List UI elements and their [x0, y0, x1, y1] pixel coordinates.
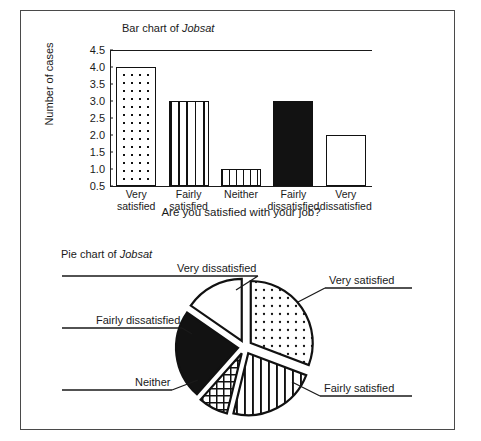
pie-slice: [251, 281, 313, 365]
bar-chart-y-axis-spine: [110, 50, 111, 187]
bar-chart-bar: [326, 135, 366, 186]
bar-chart-y-tick-mark: [110, 67, 113, 68]
pie-chart-title: Pie chart of Jobsat: [61, 248, 152, 260]
pie-slice-label: Neither: [135, 376, 170, 388]
bar-chart-top-spine: [110, 50, 372, 51]
pie-chart-title-variable: Jobsat: [120, 248, 152, 260]
bar-chart-y-axis-label: Number of cases: [43, 29, 55, 139]
pie-chart-graphic: [20, 262, 455, 430]
bar-chart-y-tick-label: 2.0: [90, 130, 105, 141]
bar-chart-x-axis-spine: [110, 186, 372, 187]
bar-chart-x-axis-label: Are you satisfied with your job?: [110, 206, 372, 218]
bar-chart-y-tick-label: 1.0: [90, 164, 105, 175]
bar-chart-plot-area: 0.51.01.52.02.53.03.54.04.5 Verysatisfie…: [110, 50, 372, 186]
bar-chart-y-tick-mark: [110, 152, 113, 153]
bar-chart-title: Bar chart of Jobsat: [122, 22, 214, 34]
bar-chart-x-tick-label: Neither: [215, 189, 267, 201]
bar-chart-y-tick-label: 4.5: [90, 45, 105, 56]
pie-chart-title-prefix: Pie chart of: [61, 248, 120, 260]
bar-chart-y-tick-mark: [110, 50, 113, 51]
bar-chart-y-tick-mark: [110, 169, 113, 170]
bar-chart-title-variable: Jobsat: [182, 22, 214, 34]
bar-chart-y-tick-mark: [110, 84, 113, 85]
pie-slice-label: Fairly satisfied: [324, 382, 394, 394]
bar-chart-y-tick-mark: [110, 135, 113, 136]
pie-slice-label: Fairly dissatisfied: [96, 314, 180, 326]
bar-chart-y-tick-label: 0.5: [90, 181, 105, 192]
bar-chart-bar: [169, 101, 209, 186]
bar-chart-bar: [221, 169, 261, 186]
bar-chart-y-tick-mark: [110, 118, 113, 119]
bar-chart-y-tick-label: 3.5: [90, 79, 105, 90]
bar-chart-y-tick-label: 4.0: [90, 62, 105, 73]
bar-chart-y-tick-mark: [110, 186, 113, 187]
pie-slice-label: Very satisfied: [329, 274, 394, 286]
figure-stage: Bar chart of Jobsat Number of cases 0.51…: [0, 0, 481, 441]
pie-leader-line: [62, 328, 192, 334]
bar-chart-y-tick-mark: [110, 101, 113, 102]
bar-chart-title-prefix: Bar chart of: [122, 22, 182, 34]
pie-leader-line: [62, 380, 198, 390]
bar-chart-y-tick-label: 3.0: [90, 96, 105, 107]
pie-slice-label: Very dissatisfied: [177, 262, 256, 274]
bar-chart-bar: [273, 101, 313, 186]
bar-chart-y-tick-label: 2.5: [90, 113, 105, 124]
bar-chart-y-tick-label: 1.5: [90, 147, 105, 158]
bar-chart-bar: [116, 67, 156, 186]
pie-slice-group: [176, 279, 313, 415]
pie-leader-line: [298, 288, 412, 302]
